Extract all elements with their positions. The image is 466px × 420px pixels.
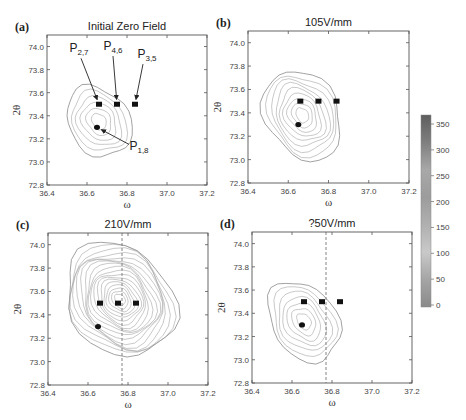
y-tick-label: 73.6: [28, 89, 44, 98]
square-marker: [334, 99, 340, 104]
y-tick-label: 73.6: [29, 287, 45, 296]
y-tick-label: 73.6: [233, 286, 249, 295]
y-tick-label: 72.8: [29, 381, 45, 390]
y-tick-label: 73.0: [229, 156, 245, 165]
y-tick-label: 73.0: [233, 356, 249, 365]
y-tick-label: 73.4: [29, 311, 45, 320]
x-axis-label: ω: [328, 396, 335, 408]
square-marker: [319, 299, 325, 304]
panel-label: (b): [216, 16, 231, 30]
x-tick-label: 37.2: [401, 187, 417, 196]
colorbar-tick-label: 300: [436, 146, 450, 155]
panel-label: (c): [16, 218, 29, 232]
annotation-arrow: [113, 56, 117, 99]
annotation-arrow: [81, 58, 97, 99]
x-tick-label: 36.4: [240, 187, 256, 196]
square-marker: [115, 301, 121, 306]
colorbar-scale: [421, 115, 431, 307]
square-marker: [132, 102, 138, 107]
panel-d: 36.436.636.837.037.272.873.073.273.473.6…: [215, 217, 420, 408]
x-tick-label: 36.8: [321, 187, 337, 196]
y-tick-label: 72.8: [229, 179, 245, 188]
x-tick-label: 37.0: [159, 189, 175, 198]
panel-label: (d): [220, 217, 235, 231]
x-tick-label: 36.6: [284, 387, 300, 396]
x-tick-label: 37.2: [404, 387, 420, 396]
y-tick-label: 73.4: [233, 309, 249, 318]
x-tick-label: 37.2: [200, 389, 216, 398]
colorbar-tick-label: 50: [436, 275, 445, 284]
y-axis-label: 2θ: [215, 302, 227, 313]
y-tick-label: 73.8: [28, 66, 44, 75]
x-tick-label: 36.6: [80, 389, 96, 398]
y-tick-label: 73.0: [28, 158, 44, 167]
x-tick-label: 36.4: [39, 189, 55, 198]
plot-frame: [47, 35, 207, 185]
y-tick-label: 73.0: [29, 358, 45, 367]
x-tick-label: 36.8: [120, 389, 136, 398]
colorbar: 050100150200250300350: [421, 115, 450, 310]
colorbar-tick-label: 150: [436, 223, 450, 232]
contour-lines: [67, 84, 132, 157]
y-tick-label: 72.8: [28, 181, 44, 190]
x-axis-label: ω: [325, 196, 332, 208]
square-marker: [315, 99, 321, 104]
colorbar-tick-label: 100: [436, 249, 450, 258]
y-axis-label: 2θ: [211, 102, 223, 113]
x-tick-label: 36.4: [244, 387, 260, 396]
x-tick-label: 36.8: [324, 387, 340, 396]
figure: 36.436.636.837.037.272.873.073.273.473.6…: [0, 0, 466, 420]
y-tick-label: 73.8: [229, 62, 245, 71]
y-tick-label: 73.4: [229, 109, 245, 118]
y-tick-label: 74.0: [233, 240, 249, 249]
x-tick-label: 36.8: [119, 189, 135, 198]
y-tick-label: 73.2: [233, 333, 249, 342]
panel-title: ?50V/mm: [308, 217, 355, 229]
square-marker: [97, 301, 103, 306]
y-tick-label: 73.8: [233, 263, 249, 272]
point-annotation: P1,8: [129, 139, 149, 155]
colorbar-tick-label: 250: [436, 172, 450, 181]
y-axis-label: 2θ: [11, 304, 23, 315]
point-annotation: P3,5: [137, 47, 157, 63]
y-tick-label: 73.6: [229, 85, 245, 94]
x-tick-label: 37.2: [199, 189, 215, 198]
plot-frame: [48, 233, 208, 385]
contour-lines: [268, 283, 343, 364]
x-tick-label: 37.0: [364, 387, 380, 396]
x-axis-label: ω: [123, 198, 130, 210]
y-tick-label: 73.2: [29, 334, 45, 343]
square-marker: [297, 99, 303, 104]
panel-title: 210V/mm: [104, 218, 151, 230]
square-marker: [96, 102, 102, 107]
plot-frame: [248, 31, 409, 183]
y-tick-label: 73.2: [229, 132, 245, 141]
circle-marker: [295, 122, 301, 127]
plot-frame: [252, 232, 412, 383]
y-tick-label: 74.0: [229, 39, 245, 48]
colorbar-tick-label: 350: [436, 120, 450, 129]
panel-a: 36.436.636.837.037.272.873.073.273.473.6…: [10, 20, 215, 210]
panel-label: (a): [15, 20, 29, 34]
annotation-arrow: [101, 130, 129, 145]
circle-marker: [95, 324, 101, 329]
y-tick-label: 73.4: [28, 112, 44, 121]
circle-marker: [299, 322, 305, 327]
x-tick-label: 36.6: [280, 187, 296, 196]
square-marker: [114, 102, 120, 107]
contour-panels: 36.436.636.837.037.272.873.073.273.473.6…: [10, 16, 420, 410]
y-tick-label: 73.2: [28, 135, 44, 144]
contour-lines: [260, 72, 340, 162]
square-marker: [133, 301, 139, 306]
y-axis-label: 2θ: [10, 105, 22, 116]
square-marker: [337, 299, 343, 304]
x-tick-label: 36.4: [40, 389, 56, 398]
x-tick-label: 37.0: [160, 389, 176, 398]
x-tick-label: 37.0: [361, 187, 377, 196]
y-tick-label: 72.8: [233, 379, 249, 388]
y-tick-label: 74.0: [29, 241, 45, 250]
point-annotation: P4,6: [103, 39, 123, 55]
colorbar-tick-label: 0: [436, 301, 441, 310]
point-annotation: P2,7: [69, 41, 89, 57]
panel-title: 105V/mm: [305, 16, 352, 28]
